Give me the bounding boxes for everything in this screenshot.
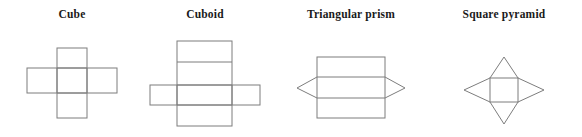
label-cube: Cube (58, 8, 85, 20)
shape-nets-figure: Cube Cuboid (0, 0, 582, 137)
label-triangular-prism: Triangular prism (307, 8, 395, 21)
label-cuboid: Cuboid (186, 8, 224, 20)
label-square-pyramid: Square pyramid (463, 8, 546, 21)
